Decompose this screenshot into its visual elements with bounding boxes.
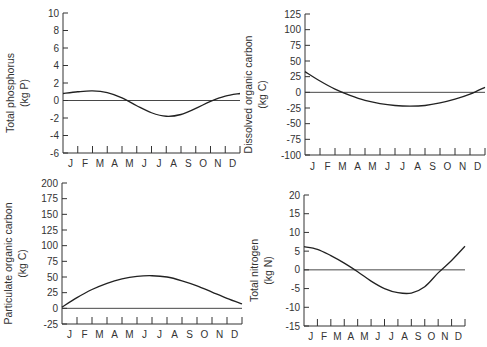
month-label: J — [157, 329, 162, 340]
month-label: M — [96, 158, 104, 169]
month-label: F — [324, 161, 330, 172]
y-tick-label: -100 — [281, 150, 301, 161]
month-label: J — [68, 158, 73, 169]
y-tick-label: 0 — [53, 95, 59, 106]
month-label: M — [338, 161, 346, 172]
month-label: J — [142, 329, 147, 340]
y-tick-label: -4 — [50, 130, 59, 141]
month-label: J — [389, 331, 394, 342]
y-tick-label: -25 — [44, 319, 59, 330]
y-tick-label: 125 — [284, 9, 301, 20]
month-label: J — [385, 161, 390, 172]
y-tick-label: 10 — [48, 8, 60, 19]
y-axis-unit: (kg N) — [262, 256, 274, 285]
month-label: S — [186, 329, 193, 340]
panel-phosphorus: 1086420-2-4-6JFMAMJJASONDTotal phosphoru… — [4, 8, 240, 170]
y-tick-label: 125 — [41, 225, 58, 236]
y-tick-label: 175 — [41, 193, 58, 204]
month-label: D — [455, 331, 462, 342]
y-axis-unit: (kg P) — [18, 79, 30, 107]
month-label: A — [171, 329, 178, 340]
y-tick-label: -6 — [50, 148, 59, 159]
y-tick-label: -25 — [287, 103, 302, 114]
month-label: S — [415, 331, 422, 342]
month-label: D — [229, 158, 236, 169]
month-label: S — [185, 158, 192, 169]
month-label: O — [199, 158, 207, 169]
month-label: O — [201, 329, 209, 340]
y-tick-label: 200 — [41, 178, 58, 189]
y-tick-label: 2 — [53, 78, 59, 89]
month-label: D — [231, 329, 238, 340]
y-tick-label: -75 — [287, 134, 302, 145]
month-label: D — [474, 161, 481, 172]
month-label: J — [142, 158, 147, 169]
y-tick-label: 50 — [47, 272, 59, 283]
y-tick-label: 4 — [53, 60, 59, 71]
month-label: F — [82, 158, 88, 169]
y-tick-label: 100 — [41, 240, 58, 251]
y-tick-label: 0 — [52, 303, 58, 314]
panel-doc: 1251007550250-25-50-75-100JFMAMJJASONDDi… — [242, 9, 485, 173]
month-label: J — [310, 161, 315, 172]
month-label: J — [375, 331, 380, 342]
month-label: M — [368, 161, 376, 172]
month-label: O — [444, 161, 452, 172]
month-label: F — [321, 331, 327, 342]
month-label: A — [170, 158, 177, 169]
y-axis-title: Total phosphorus — [4, 53, 16, 133]
month-label: A — [111, 329, 118, 340]
month-label: A — [401, 331, 408, 342]
y-axis-title: Particulate organic carbon — [2, 202, 14, 324]
y-tick-label: -5 — [291, 283, 300, 294]
y-tick-label: 10 — [289, 227, 301, 238]
data-curve — [63, 91, 240, 116]
month-label: F — [81, 329, 87, 340]
month-label: N — [216, 329, 223, 340]
y-tick-label: 50 — [290, 56, 302, 67]
data-curve — [62, 276, 242, 307]
y-tick-label: 6 — [53, 43, 59, 54]
y-tick-label: 100 — [284, 24, 301, 35]
month-label: J — [67, 329, 72, 340]
chart-figure: 1086420-2-4-6JFMAMJJASONDTotal phosphoru… — [0, 0, 487, 347]
month-label: M — [125, 329, 133, 340]
month-label: S — [429, 161, 436, 172]
y-axis-title: Total nitrogen — [248, 239, 260, 302]
y-tick-label: 0 — [294, 264, 300, 275]
y-tick-label: -10 — [286, 302, 301, 313]
month-label: J — [308, 331, 313, 342]
month-label: J — [156, 158, 161, 169]
y-tick-label: 25 — [47, 287, 59, 298]
y-tick-label: 75 — [290, 40, 302, 51]
month-label: N — [459, 161, 466, 172]
y-tick-label: 5 — [294, 246, 300, 257]
y-tick-label: 8 — [53, 25, 59, 36]
month-label: N — [441, 331, 448, 342]
month-label: A — [111, 158, 118, 169]
y-tick-label: 150 — [41, 209, 58, 220]
panel-poc: 2001751501251007550250-25JFMAMJJASONDPar… — [2, 178, 242, 341]
y-tick-label: 15 — [289, 208, 301, 219]
month-label: J — [400, 161, 405, 172]
y-tick-label: -15 — [286, 321, 301, 332]
y-axis-title: Dissolved organic carbon — [242, 35, 254, 153]
y-tick-label: -2 — [50, 113, 59, 124]
month-label: O — [428, 331, 436, 342]
y-tick-label: 25 — [290, 71, 302, 82]
month-label: A — [414, 161, 421, 172]
month-label: M — [95, 329, 103, 340]
y-tick-label: 20 — [289, 190, 301, 201]
month-label: M — [333, 331, 341, 342]
y-tick-label: 0 — [295, 87, 301, 98]
month-label: M — [125, 158, 133, 169]
y-tick-label: -50 — [287, 118, 302, 129]
y-axis-unit: (kg C) — [16, 249, 28, 278]
month-label: A — [348, 331, 355, 342]
data-curve — [305, 72, 485, 106]
month-label: N — [214, 158, 221, 169]
y-tick-label: 75 — [47, 256, 59, 267]
panel-nitrogen: 20151050-5-10-15JFMAMJJASONDTotal nitrog… — [248, 190, 465, 343]
y-axis-unit: (kg C) — [256, 80, 268, 109]
month-label: M — [360, 331, 368, 342]
